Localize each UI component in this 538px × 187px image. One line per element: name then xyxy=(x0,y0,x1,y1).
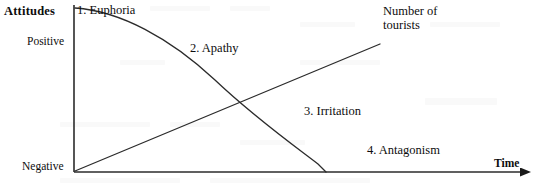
tourists-series-label-line2: tourists xyxy=(383,18,438,32)
figure-container: Attitudes Positive Negative Time 1. Euph… xyxy=(0,0,538,187)
tourists-series-label: Number of tourists xyxy=(383,4,438,32)
x-axis-title: Time xyxy=(494,157,519,170)
attitudes-curve xyxy=(75,8,326,172)
tourists-series-label-line1: Number of xyxy=(383,4,438,18)
stage-label-euphoria: 1. Euphoria xyxy=(77,3,135,17)
diagram-canvas xyxy=(0,0,538,187)
y-axis-tick-positive: Positive xyxy=(27,35,64,48)
stage-label-irritation: 3. Irritation xyxy=(304,104,361,118)
stage-label-antagonism: 4. Antagonism xyxy=(367,143,440,157)
y-axis-tick-negative: Negative xyxy=(22,160,64,173)
y-axis-title: Attitudes xyxy=(4,4,55,18)
stage-label-apathy: 2. Apathy xyxy=(190,41,239,55)
